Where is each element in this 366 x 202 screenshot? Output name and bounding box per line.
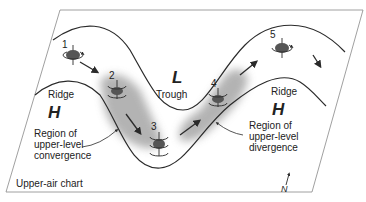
divergence-line-3: divergence [249,142,298,153]
ridge-right-label: Ridge [271,86,297,97]
north-label: N [281,184,288,194]
convergence-line-3: convergence [34,150,91,161]
convergence-line-1: Region of [34,128,91,139]
upper-air-chart-graphic [0,0,366,202]
chart-title: Upper-air chart [16,178,83,189]
high-pressure-right-label: H [272,100,284,120]
convergence-line-2: upper-level [34,139,91,150]
divergence-line-1: Region of [249,120,298,131]
low-pressure-label: L [172,68,182,88]
convergence-region-label: Region of upper-level convergence [34,128,91,161]
position-2-label: 2 [109,70,115,81]
divergence-line-2: upper-level [249,131,298,142]
position-1-label: 1 [62,39,68,50]
position-4-label: 4 [211,78,217,89]
chart-frame [6,10,363,192]
position-5-label: 5 [270,29,276,40]
divergence-region-label: Region of upper-level divergence [249,120,298,153]
high-pressure-left-label: H [48,103,60,123]
position-3-label: 3 [151,121,157,132]
ridge-left-label: Ridge [48,89,74,100]
trough-label: Trough [156,89,187,100]
